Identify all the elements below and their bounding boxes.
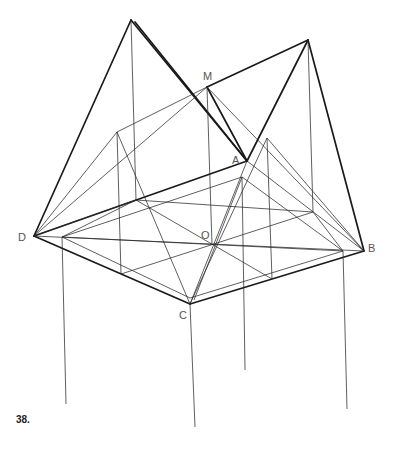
- construction-lines: [34, 20, 364, 427]
- label-A: A: [232, 154, 240, 166]
- outer-edges: [34, 20, 364, 304]
- label-O: O: [201, 229, 210, 241]
- label-C: C: [179, 309, 187, 321]
- label-D: D: [18, 231, 26, 243]
- pyramid-diagram: M A O D B C: [0, 0, 395, 453]
- label-M: M: [203, 70, 212, 82]
- figure-caption: 38.: [16, 414, 30, 425]
- label-B: B: [368, 242, 375, 254]
- vertex-labels: M A O D B C: [18, 70, 375, 321]
